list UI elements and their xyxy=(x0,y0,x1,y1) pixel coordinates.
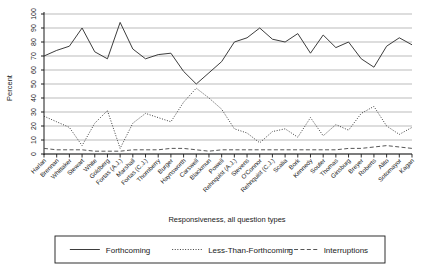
y-tick-label: 50 xyxy=(30,80,37,88)
legend-label-forthcoming: Forthcoming xyxy=(106,246,150,255)
y-tick-label: 10 xyxy=(30,136,37,144)
y-tick-label: 80 xyxy=(30,38,37,46)
responsiveness-line-chart: 0102030405060708090100 HarlanBrennanWhit… xyxy=(0,0,430,280)
chart-container: 0102030405060708090100 HarlanBrennanWhit… xyxy=(0,0,430,280)
y-tick-label: 70 xyxy=(30,52,37,60)
y-tick-label: 40 xyxy=(30,94,37,102)
legend-label-interruptions: Interruptions xyxy=(324,246,368,255)
y-tick-label: 30 xyxy=(30,108,37,116)
y-tick-label: 60 xyxy=(30,66,37,74)
y-tick-label: 20 xyxy=(30,122,37,130)
legend-label-less-than-forthcoming: Less-Than-Forthcoming xyxy=(208,246,293,255)
y-tick-label: 90 xyxy=(30,24,37,32)
y-tick-label: 100 xyxy=(30,8,37,20)
y-tick-label: 0 xyxy=(30,152,37,156)
y-axis-label: Percent xyxy=(5,74,14,101)
x-axis-label: Responsiveness, all question types xyxy=(168,215,285,224)
